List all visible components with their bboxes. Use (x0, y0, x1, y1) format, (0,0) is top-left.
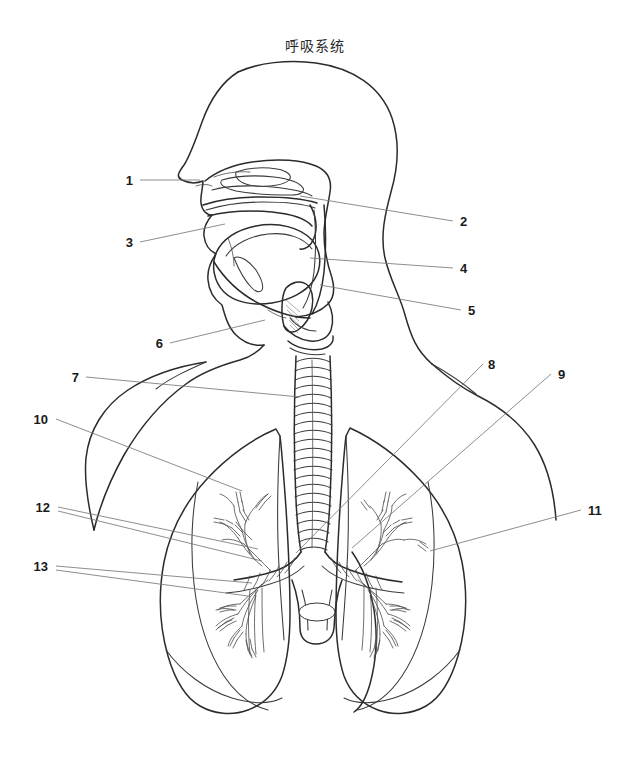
nasal-vestibule (196, 185, 212, 187)
left-lung-oblique-fissure (192, 482, 268, 710)
leader-line-9 (352, 374, 551, 548)
leader-line-12b (58, 511, 262, 561)
label-numbers-group: 12345678910111213 (34, 173, 602, 574)
leader-line-4 (310, 258, 453, 268)
neck-front-outline (94, 345, 264, 530)
right-lung-oblique-fissure (358, 482, 434, 710)
left-lung-group (161, 429, 290, 713)
label-number-1[interactable]: 1 (126, 173, 133, 188)
label-number-3[interactable]: 3 (126, 235, 133, 250)
uvula (234, 257, 263, 292)
nasal-turbinate-superior (236, 168, 291, 186)
label-number-13[interactable]: 13 (34, 559, 48, 574)
oral-cavity-roof (208, 211, 312, 226)
right-shoulder-crease (432, 364, 476, 394)
figure-title: 呼吸系统 (285, 38, 345, 54)
leader-line-6 (170, 320, 265, 343)
label-number-2[interactable]: 2 (460, 214, 467, 229)
label-number-9[interactable]: 9 (558, 367, 565, 382)
label-number-5[interactable]: 5 (468, 303, 475, 318)
cricoid-cartilage (288, 336, 333, 350)
pharynx-cavity (303, 210, 316, 308)
head-sagittal-section (196, 160, 334, 355)
leader-line-2 (300, 196, 453, 221)
left-lower-bronchiole-segments (218, 606, 256, 658)
trachea-inner-highlight (312, 360, 313, 548)
label-number-11[interactable]: 11 (588, 503, 602, 518)
leader-line-13 (56, 566, 252, 583)
leader-lines-group (56, 180, 581, 596)
right-bronchiole-segments (361, 492, 428, 551)
label-number-4[interactable]: 4 (460, 261, 468, 276)
label-number-8[interactable]: 8 (488, 357, 495, 372)
tongue-inner-contour (226, 234, 312, 256)
body-outline-group (85, 61, 556, 530)
pharynx-posterior-wall (312, 205, 326, 314)
nasal-turbinate-middle (221, 176, 304, 195)
leader-line-12 (58, 507, 258, 549)
hard-palate (203, 197, 317, 205)
left-lung-outline (161, 429, 290, 713)
larynx-thyroid-cartilage (284, 302, 332, 341)
esophagus-cross-section (299, 603, 335, 621)
leader-line-5 (320, 285, 461, 310)
label-number-10[interactable]: 10 (34, 412, 48, 427)
hard-palate-inner (206, 202, 315, 210)
label-number-12[interactable]: 12 (36, 500, 50, 515)
respiratory-system-figure: 呼吸系统 (0, 0, 630, 770)
diagram-canvas: 呼吸系统 (0, 0, 630, 770)
label-number-6[interactable]: 6 (156, 336, 163, 351)
tongue (214, 225, 320, 304)
label-number-7[interactable]: 7 (72, 370, 79, 385)
leader-line-10 (56, 419, 242, 491)
leader-line-3 (140, 224, 225, 242)
left-shoulder-outline (85, 362, 206, 530)
right-neck-shoulder-outline (432, 364, 556, 520)
